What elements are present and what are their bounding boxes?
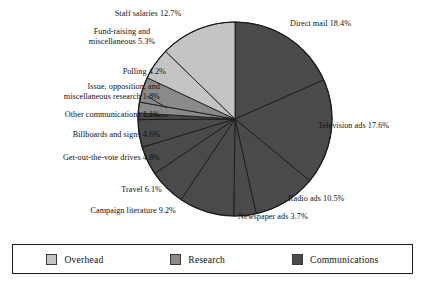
slice-label-issue-research-line2: miscellaneous research 1.8%	[64, 92, 160, 101]
slice-label-get-out-the-vote: Get-out-the-vote drives 4.8%	[6, 153, 160, 163]
slice-label-newspaper-ads: Newspaper ads 3.7%	[238, 212, 348, 222]
legend-label-research: Research	[188, 254, 225, 265]
slice-label-fund-raising-line1: Fund-raising and	[94, 27, 151, 36]
pie-chart-figure: Staff salaries 12.7% Fund-raising and mi…	[0, 0, 425, 285]
legend-label-overhead: Overhead	[64, 254, 103, 265]
legend-swatch-communications-icon	[292, 254, 303, 265]
slice-label-polling: Polling 4.2%	[46, 67, 166, 77]
legend-swatch-overhead-icon	[46, 254, 57, 265]
slice-label-issue-research: Issue, opposition, and miscellaneous res…	[8, 82, 160, 102]
legend-label-communications: Communications	[310, 254, 378, 265]
slice-label-travel: Travel 6.1%	[62, 185, 162, 195]
slice-label-fund-raising: Fund-raising and miscellaneous 5.3%	[58, 27, 186, 47]
slice-label-radio-ads: Radio ads 10.5%	[288, 194, 398, 204]
slice-label-television-ads: Television ads 17.6%	[318, 121, 422, 131]
slice-label-issue-research-line1: Issue, opposition, and	[87, 82, 160, 91]
slice-label-staff-salaries: Staff salaries 12.7%	[86, 9, 210, 19]
legend-swatch-research-icon	[170, 254, 181, 265]
slice-label-billboards: Billboards and signs 4.6%	[18, 130, 160, 140]
chart-legend: Overhead Research Communications	[12, 244, 413, 274]
legend-item-research: Research	[170, 254, 225, 265]
legend-item-communications: Communications	[292, 254, 378, 265]
slice-label-direct-mail: Direct mail 18.4%	[290, 19, 400, 29]
slice-label-other-communications: Other communications 1.1%	[8, 110, 160, 120]
slice-label-campaign-literature: Campaign literature 9.2%	[42, 206, 176, 216]
legend-item-overhead: Overhead	[46, 254, 103, 265]
slice-label-fund-raising-line2: miscellaneous 5.3%	[89, 37, 155, 46]
